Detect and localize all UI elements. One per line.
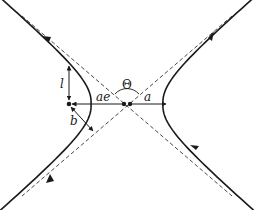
label-a: a bbox=[144, 90, 151, 104]
label-l: l bbox=[60, 77, 64, 91]
hyperbola-branch-right bbox=[163, 0, 254, 210]
hyperbola-diagram: l ae a b Θ bbox=[0, 0, 254, 210]
direction-arrow-right-bottom bbox=[190, 145, 199, 150]
label-b: b bbox=[70, 114, 78, 128]
focus-point bbox=[67, 102, 72, 107]
direction-arrow-left-bottom bbox=[46, 174, 54, 183]
label-theta: Θ bbox=[122, 78, 132, 92]
label-ae: ae bbox=[96, 90, 110, 104]
center-point-right bbox=[128, 102, 132, 106]
center-point-left bbox=[122, 102, 126, 106]
hyperbola-branch-left bbox=[0, 0, 91, 210]
